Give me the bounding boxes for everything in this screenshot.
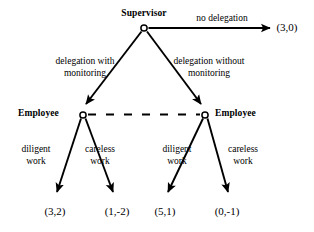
payoff-left-careless: (1,-2): [105, 206, 130, 218]
action-label-left-diligent-line1: diligent: [21, 145, 50, 155]
payoff-no-delegation: (3,0): [276, 22, 297, 34]
node-employee-right: [202, 112, 208, 118]
payoff-right-diligent: (5,1): [154, 206, 175, 218]
player-label-employee-right: Employee: [215, 109, 256, 119]
action-label-right-diligent-line1: diligent: [162, 145, 191, 155]
payoff-right-careless: (0,-1): [215, 206, 240, 218]
node-supervisor: [141, 25, 147, 31]
action-label-left-diligent-line2: work: [26, 157, 46, 167]
player-label-supervisor: Supervisor: [121, 9, 166, 19]
action-label-delegation-with-monitoring-line1: delegation with: [56, 57, 115, 67]
action-label-left-careless-line2: work: [90, 157, 110, 167]
game-tree-diagram: Supervisor Employee Employee no delegati…: [0, 0, 314, 232]
action-label-right-careless-line1: careless: [228, 145, 258, 155]
player-label-employee-left: Employee: [18, 109, 59, 119]
action-label-left-careless-line1: careless: [85, 145, 115, 155]
node-employee-left: [80, 112, 86, 118]
action-label-delegation-without-monitoring-line1: delegation without: [174, 57, 245, 67]
action-label-delegation-without-monitoring-line2: monitoring: [188, 69, 230, 79]
action-label-right-diligent-line2: work: [167, 157, 187, 167]
payoff-left-diligent: (3,2): [44, 206, 65, 218]
action-label-delegation-with-monitoring-line2: monitoring: [64, 69, 106, 79]
branch-right-careless: [208, 119, 229, 193]
action-label-right-careless-line2: work: [233, 157, 253, 167]
action-label-no-delegation: no delegation: [196, 14, 247, 24]
branch-left-diligent: [57, 119, 81, 193]
